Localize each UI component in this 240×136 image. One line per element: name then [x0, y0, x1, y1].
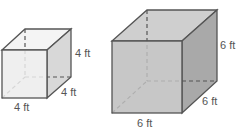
large-width-label: 6 ft: [137, 117, 152, 129]
small-height-label: 4 ft: [75, 47, 90, 59]
large-cube-front: [112, 41, 182, 113]
large-cube: 6 ft 6 ft 6 ft: [112, 10, 235, 129]
large-height-label: 6 ft: [220, 39, 235, 51]
small-cube-front: [2, 50, 47, 98]
cubes-diagram: 4 ft 4 ft 4 ft 6 ft 6 ft 6 ft: [0, 0, 240, 136]
small-width-label: 4 ft: [14, 101, 29, 113]
small-cube: 4 ft 4 ft 4 ft: [2, 29, 90, 113]
small-depth-label: 4 ft: [61, 86, 76, 98]
large-depth-label: 6 ft: [202, 95, 217, 107]
